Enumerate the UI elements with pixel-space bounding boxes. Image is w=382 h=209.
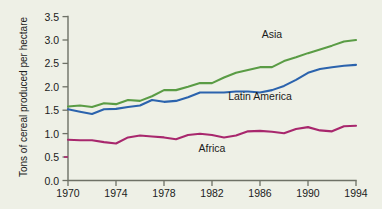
chart-canvas: Tons of cereal produced per hectare 0.0 … bbox=[0, 0, 382, 209]
x-tick-label-1982: 1982 bbox=[200, 187, 224, 199]
y-tick-label-5: 2.5 bbox=[44, 57, 59, 69]
x-tick-label-1990: 1990 bbox=[296, 187, 320, 199]
series-label-africa: Africa bbox=[199, 142, 226, 154]
y-tick-label-4: 2.0 bbox=[44, 81, 59, 93]
series-label-latin-america: Latin America bbox=[228, 90, 292, 102]
y-tick-label-6: 3.0 bbox=[44, 34, 59, 46]
y-tick-label-3: 1.5 bbox=[44, 104, 59, 116]
x-tick-label-1986: 1986 bbox=[248, 187, 272, 199]
cereal-yield-line-chart: Tons of cereal produced per hectare 0.0 … bbox=[0, 0, 382, 209]
x-tick-label-1978: 1978 bbox=[152, 187, 176, 199]
series-label-asia: Asia bbox=[262, 28, 283, 40]
x-tick-label-1974: 1974 bbox=[104, 187, 128, 199]
y-tick-label-2: 1.0 bbox=[44, 128, 59, 140]
y-tick-label-1: 0.5 bbox=[44, 151, 59, 163]
y-axis-title: Tons of cereal produced per hectare bbox=[18, 17, 29, 178]
x-tick-label-1970: 1970 bbox=[56, 187, 80, 199]
y-tick-label-0: 0.0 bbox=[44, 175, 59, 187]
x-tick-label-1994: 1994 bbox=[344, 187, 368, 199]
y-tick-label-7: 3.5 bbox=[44, 11, 59, 23]
